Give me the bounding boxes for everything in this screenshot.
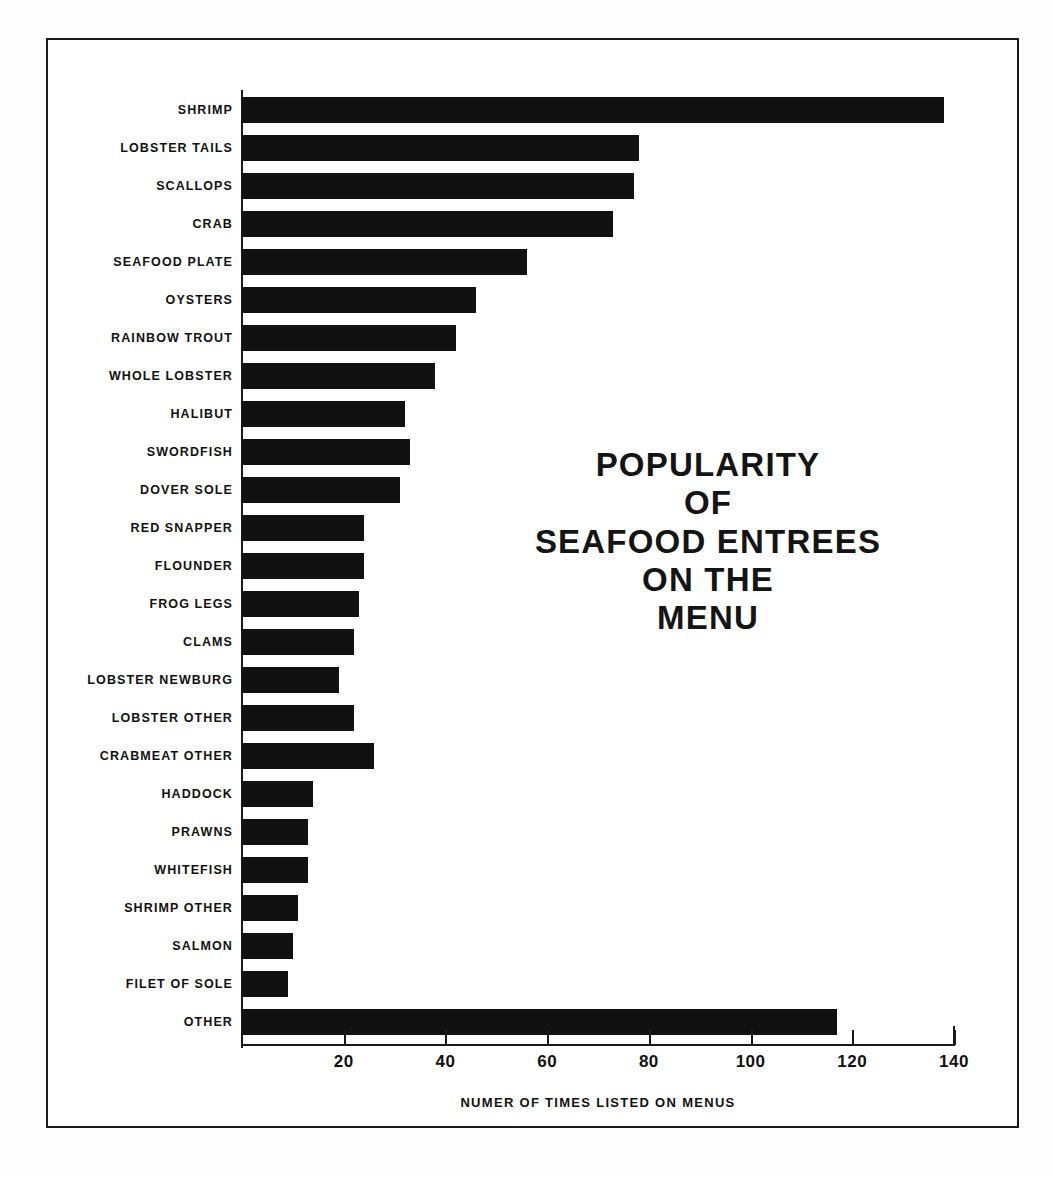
bar-category-label: FROG LEGS: [149, 591, 233, 617]
bar-row: LOBSTER OTHER: [48, 705, 1021, 731]
bar-category-label: SHRIMP OTHER: [124, 895, 233, 921]
bar: [242, 553, 364, 579]
bar-category-label: FILET OF SOLE: [126, 971, 233, 997]
bar-category-label: SALMON: [172, 933, 233, 959]
bar-row: LOBSTER NEWBURG: [48, 667, 1021, 693]
x-tick-label: 120: [822, 1052, 882, 1072]
chart-title-line: POPULARITY: [478, 446, 938, 484]
bar: [242, 857, 308, 883]
bar: [242, 667, 339, 693]
chart-title-line: OF: [478, 484, 938, 522]
bar-category-label: SCALLOPS: [156, 173, 233, 199]
bar: [242, 819, 308, 845]
bar-row: SCALLOPS: [48, 173, 1021, 199]
bar: [242, 211, 613, 237]
bar: [242, 629, 354, 655]
bar: [242, 477, 400, 503]
bar-category-label: LOBSTER TAILS: [120, 135, 233, 161]
bar: [242, 325, 456, 351]
chart-title-line: MENU: [478, 599, 938, 637]
bar-row: LOBSTER TAILS: [48, 135, 1021, 161]
x-tick-label: 100: [721, 1052, 781, 1072]
bar-category-label: CRAB: [192, 211, 233, 237]
bar: [242, 971, 288, 997]
bar: [242, 1009, 837, 1035]
bar-category-label: RAINBOW TROUT: [111, 325, 233, 351]
bar-category-label: RED SNAPPER: [131, 515, 233, 541]
bar-category-label: HALIBUT: [170, 401, 233, 427]
bar-category-label: WHITEFISH: [154, 857, 233, 883]
x-tick-label: 40: [415, 1052, 475, 1072]
x-tick: [649, 1030, 651, 1045]
bar-row: SALMON: [48, 933, 1021, 959]
bar-row: HADDOCK: [48, 781, 1021, 807]
chart-title: POPULARITYOFSEAFOOD ENTREESON THEMENU: [478, 446, 938, 637]
x-tick-label: 140: [924, 1052, 984, 1072]
plot-area: SHRIMPLOBSTER TAILSSCALLOPSCRABSEAFOOD P…: [48, 40, 1021, 1130]
x-tick-label: 60: [517, 1052, 577, 1072]
bar-row: SEAFOOD PLATE: [48, 249, 1021, 275]
bar-category-label: OYSTERS: [166, 287, 233, 313]
x-axis-title: NUMER OF TIMES LISTED ON MENUS: [241, 1095, 955, 1110]
bar: [242, 591, 359, 617]
bar: [242, 401, 405, 427]
bar: [242, 743, 374, 769]
bar: [242, 173, 634, 199]
bar-category-label: LOBSTER OTHER: [112, 705, 233, 731]
bar-category-label: CRABMEAT OTHER: [100, 743, 233, 769]
bar-row: SHRIMP OTHER: [48, 895, 1021, 921]
bar: [242, 363, 435, 389]
x-tick-label: 20: [314, 1052, 374, 1072]
bar-row: WHOLE LOBSTER: [48, 363, 1021, 389]
bar-row: WHITEFISH: [48, 857, 1021, 883]
bar: [242, 515, 364, 541]
bar-category-label: SWORDFISH: [147, 439, 233, 465]
bar-category-label: WHOLE LOBSTER: [109, 363, 233, 389]
bar-row: OYSTERS: [48, 287, 1021, 313]
bar-row: FILET OF SOLE: [48, 971, 1021, 997]
bar-category-label: DOVER SOLE: [140, 477, 233, 503]
bar-category-label: LOBSTER NEWBURG: [87, 667, 233, 693]
x-tick: [445, 1030, 447, 1045]
bar-category-label: SHRIMP: [178, 97, 233, 123]
x-tick: [547, 1030, 549, 1045]
x-tick: [344, 1030, 346, 1045]
bar: [242, 439, 410, 465]
bar-row: OTHER: [48, 1009, 1021, 1035]
bar-category-label: HADDOCK: [161, 781, 233, 807]
x-tick-label: 80: [619, 1052, 679, 1072]
x-tick: [852, 1030, 854, 1045]
bar: [242, 933, 293, 959]
bar: [242, 249, 527, 275]
bar: [242, 895, 298, 921]
chart-title-line: ON THE: [478, 561, 938, 599]
chart-frame-border: SHRIMPLOBSTER TAILSSCALLOPSCRABSEAFOOD P…: [46, 38, 1019, 1128]
bar-row: RAINBOW TROUT: [48, 325, 1021, 351]
bar-category-label: CLAMS: [183, 629, 233, 655]
x-tick: [751, 1030, 753, 1045]
bar: [242, 781, 313, 807]
bar-category-label: PRAWNS: [172, 819, 233, 845]
bar: [242, 97, 944, 123]
bar-category-label: SEAFOOD PLATE: [113, 249, 233, 275]
bar: [242, 135, 639, 161]
bar-row: SHRIMP: [48, 97, 1021, 123]
bar-category-label: OTHER: [184, 1009, 233, 1035]
bar-category-label: FLOUNDER: [155, 553, 233, 579]
bar: [242, 705, 354, 731]
bar-row: CRAB: [48, 211, 1021, 237]
bar-row: CRABMEAT OTHER: [48, 743, 1021, 769]
chart-page: SHRIMPLOBSTER TAILSSCALLOPSCRABSEAFOOD P…: [0, 0, 1053, 1177]
bar-row: HALIBUT: [48, 401, 1021, 427]
bar-row: PRAWNS: [48, 819, 1021, 845]
x-tick: [954, 1030, 956, 1045]
bar: [242, 287, 476, 313]
x-axis-line: [241, 1044, 955, 1046]
chart-title-line: SEAFOOD ENTREES: [478, 523, 938, 561]
